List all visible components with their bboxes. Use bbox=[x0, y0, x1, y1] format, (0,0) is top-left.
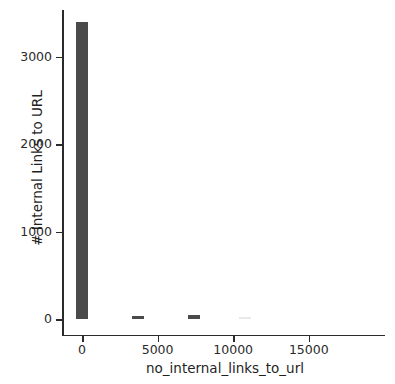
histogram-bar bbox=[188, 315, 200, 319]
x-axis-title: no_internal_links_to_url bbox=[0, 360, 395, 376]
histogram-bar bbox=[132, 316, 144, 320]
y-axis-title: # Internal Links to URL bbox=[29, 38, 45, 298]
histogram-bar bbox=[239, 317, 251, 319]
histogram-bar bbox=[76, 22, 88, 319]
bars-layer bbox=[0, 0, 395, 384]
histogram-figure: 0 1000 2000 3000 0 5000 10000 15000 no_i… bbox=[0, 0, 395, 384]
